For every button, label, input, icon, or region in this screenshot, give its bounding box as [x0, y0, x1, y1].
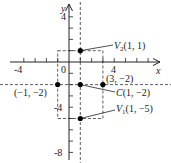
- origin-label: 0: [61, 64, 66, 75]
- coordinate-graph: x y 0 -4 4 4 -4 -8 V2(1, 1) C(1, −2) V1(…: [0, 0, 171, 163]
- x-tick-label-neg4: -4: [14, 64, 22, 75]
- label-v1: V1(1, −5): [116, 103, 153, 116]
- point-left: [55, 82, 60, 87]
- x-axis-label: x: [155, 65, 161, 76]
- x-axis: [10, 58, 160, 66]
- label-left-point: (−1, −2): [14, 87, 47, 99]
- point-c: [78, 82, 83, 87]
- y-tick-label-neg4: -4: [54, 102, 62, 113]
- y-tick-label-neg8: -8: [54, 147, 62, 158]
- point-v1: [78, 116, 83, 121]
- y-axis: [66, 4, 74, 160]
- leader-v2: [80, 45, 113, 51]
- point-right: [100, 82, 105, 87]
- leader-c: [80, 85, 115, 92]
- point-v2: [78, 48, 83, 53]
- label-c: C(1, −2): [116, 87, 150, 99]
- leader-v1: [80, 110, 115, 119]
- label-v2: V2(1, 1): [114, 40, 145, 53]
- y-tick-label-4: 4: [61, 11, 66, 22]
- label-right-point: (3, −2): [106, 73, 133, 85]
